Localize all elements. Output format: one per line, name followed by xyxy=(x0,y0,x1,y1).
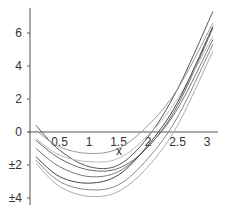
y-tick-label: 2 xyxy=(15,92,22,106)
y-tick-label: 4 xyxy=(15,59,22,73)
y-tick-label: 0 xyxy=(15,125,22,139)
y-tick-label: ±2 xyxy=(9,158,23,172)
chart: 0.511.522.53 6420±2±4 x xyxy=(0,0,227,211)
x-tick-label: 3 xyxy=(204,135,211,149)
y-tick-label: ±4 xyxy=(9,191,23,205)
x-axis-label: x xyxy=(116,144,122,158)
x-tick-label: 1 xyxy=(86,135,93,149)
y-tick-label: 6 xyxy=(15,26,22,40)
x-tick-label: 2.5 xyxy=(169,135,186,149)
